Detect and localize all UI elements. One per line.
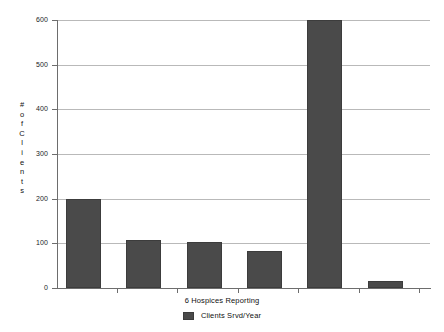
bar-2 (126, 240, 161, 288)
y-axis-label-char: s (14, 186, 30, 196)
y-tick-label-200: 200 (36, 195, 48, 202)
y-tick-600 (52, 20, 57, 21)
bar-3 (187, 242, 222, 288)
y-axis-label-char: C (14, 129, 30, 139)
bar-6 (368, 281, 403, 288)
y-axis-label-char: l (14, 138, 30, 148)
gridline-500 (57, 65, 430, 66)
legend-swatch-clients-srvd-year (183, 312, 194, 320)
y-tick-label-0: 0 (44, 284, 48, 291)
plot-area (57, 20, 430, 288)
gridline-300 (57, 154, 430, 155)
x-tick-5 (359, 289, 360, 293)
bar-1 (66, 199, 101, 288)
y-tick-0 (52, 288, 57, 289)
chart-legend: Clients Srvd/Year (0, 311, 444, 320)
y-tick-label-600: 600 (36, 16, 48, 23)
x-axis-line (57, 288, 431, 289)
y-axis-line (57, 20, 58, 289)
y-tick-400 (52, 109, 57, 110)
y-axis-label-char: e (14, 158, 30, 168)
x-tick-2 (177, 289, 178, 293)
y-axis-label: # o f C l i e n t s (14, 100, 30, 196)
gridline-200 (57, 199, 430, 200)
x-tick-4 (298, 289, 299, 293)
y-tick-100 (52, 243, 57, 244)
gridline-400 (57, 109, 430, 110)
gridline-100 (57, 243, 430, 244)
y-tick-label-100: 100 (36, 239, 48, 246)
x-axis-label: 6 Hospices Reporting (0, 296, 444, 305)
x-tick-3 (238, 289, 239, 293)
y-tick-300 (52, 154, 57, 155)
x-tick-1 (117, 289, 118, 293)
legend-label-clients-srvd-year: Clients Srvd/Year (201, 311, 261, 320)
y-tick-500 (52, 65, 57, 66)
y-axis-label-char: i (14, 148, 30, 158)
x-tick-6 (419, 289, 420, 293)
bar-4 (247, 251, 282, 288)
y-axis-label-char: # (14, 100, 30, 110)
y-tick-label-300: 300 (36, 150, 48, 157)
gridline-600 (57, 20, 430, 21)
y-axis-label-char: f (14, 119, 30, 129)
bar-chart: 600 500 400 300 200 100 0 # o f C l i e … (0, 0, 444, 332)
y-tick-label-500: 500 (36, 61, 48, 68)
y-axis-label-char: t (14, 177, 30, 187)
bar-5 (307, 20, 342, 288)
y-tick-200 (52, 199, 57, 200)
y-axis-label-char: n (14, 167, 30, 177)
y-tick-label-400: 400 (36, 105, 48, 112)
y-axis-label-char: o (14, 110, 30, 120)
